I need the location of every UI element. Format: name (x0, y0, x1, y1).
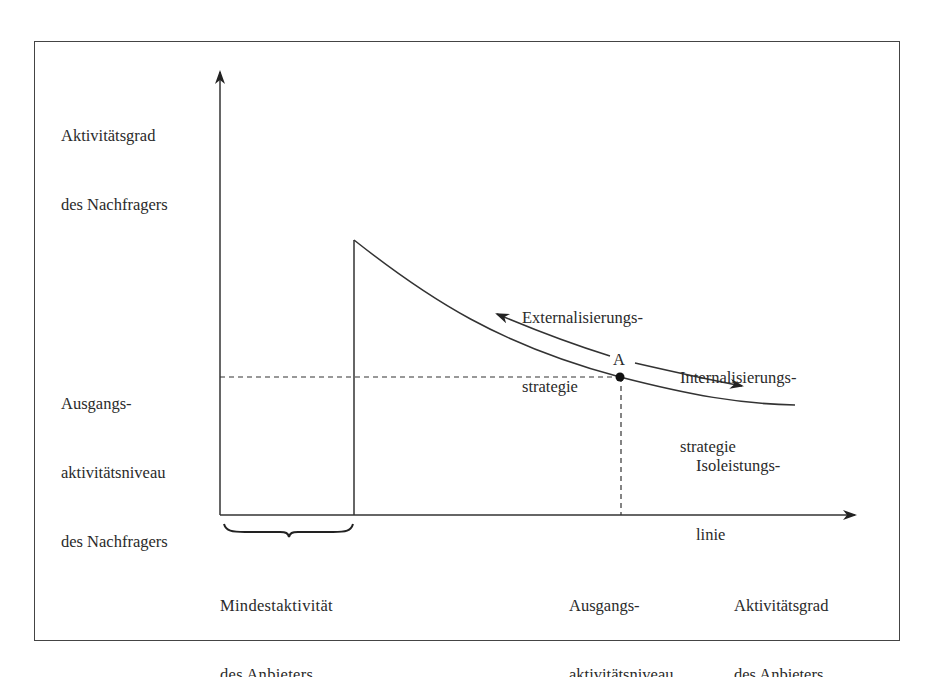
x-axis-label-line1: Aktivitätsgrad (734, 594, 828, 617)
y-reference-label-line3: des Nachfragers (61, 530, 168, 553)
curve-label-line1: Isoleistungs- (696, 454, 780, 477)
x-reference-label-line2: aktivitätsniveau (569, 663, 673, 677)
point-a-label: A (613, 348, 625, 371)
externalization-label-line2: strategie (522, 375, 643, 398)
y-axis-label: Aktivitätsgrad des Nachfragers (61, 78, 168, 239)
y-reference-label-line1: Ausgangs- (61, 392, 168, 415)
curve-label-line2: linie (696, 523, 780, 546)
externalization-label-line1: Externalisierungs- (522, 306, 643, 329)
y-axis-label-line1: Aktivitätsgrad (61, 124, 168, 147)
y-reference-label: Ausgangs- aktivitätsniveau des Nachfrage… (61, 346, 168, 576)
internalization-label-line1: Internalisierungs- (680, 366, 796, 389)
minimum-activity-label-line2: des Anbieters (220, 663, 333, 677)
y-axis-label-line2: des Nachfragers (61, 193, 168, 216)
x-reference-label-line1: Ausgangs- (569, 594, 673, 617)
minimum-activity-label: Mindestaktivität des Anbieters (220, 548, 333, 677)
x-reference-label: Ausgangs- aktivitätsniveau des Anbieters (569, 548, 673, 677)
y-reference-label-line2: aktivitätsniveau (61, 461, 168, 484)
externalization-label: Externalisierungs- strategie (522, 260, 643, 421)
x-axis-label-line2: des Anbieters (734, 663, 828, 677)
isoperformance-curve-label: Isoleistungs- linie (696, 408, 780, 569)
minimum-activity-brace (224, 524, 353, 537)
minimum-activity-label-line1: Mindestaktivität (220, 594, 333, 617)
